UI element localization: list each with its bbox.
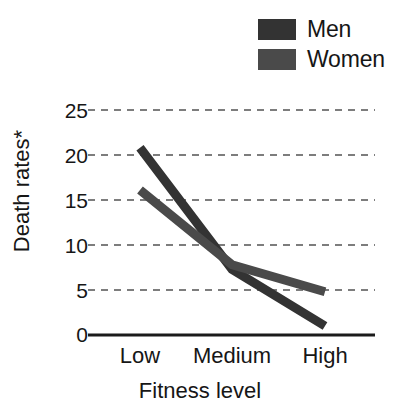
series-line-women	[140, 190, 325, 292]
x-axis-title: Fitness level	[0, 378, 400, 404]
x-tick-label-high: High	[302, 345, 347, 367]
chart-figure: Men Women 25 20 15 10 5 0 Low Medium Hig…	[0, 0, 400, 407]
y-axis-title: Death rates*	[9, 111, 35, 271]
series-line-men	[140, 148, 325, 326]
y-tick-label-5: 5	[48, 280, 88, 301]
x-tick-label-medium: Medium	[193, 345, 271, 367]
y-tick-label-10: 10	[48, 235, 88, 256]
y-tick-label-0: 0	[48, 324, 88, 345]
series-group	[140, 148, 325, 326]
x-tick-label-low: Low	[120, 345, 160, 367]
y-tick-label-20: 20	[48, 145, 88, 166]
y-tick-label-15: 15	[48, 190, 88, 211]
y-tick-label-25: 25	[48, 100, 88, 121]
